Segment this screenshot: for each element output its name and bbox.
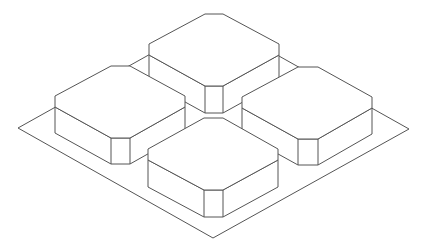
isometric-drawing: [0, 0, 427, 248]
